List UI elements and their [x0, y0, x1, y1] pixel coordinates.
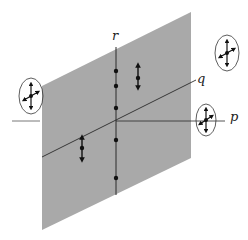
diagram-svg [0, 0, 248, 240]
r-axis-label: r [112, 29, 118, 42]
q-axis-label: q [197, 72, 205, 85]
ellipse-cross-icon-top-right [215, 35, 239, 71]
p-axis-label: p [230, 110, 238, 123]
ellipse-cross-icon-left [19, 78, 43, 114]
ellipse-cross-icon-p [196, 104, 216, 136]
diagram-canvas: r q p [0, 0, 248, 240]
